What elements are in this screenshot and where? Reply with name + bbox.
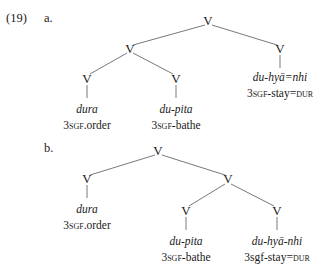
leaf-gloss-a-1: 3SGF.order (63, 120, 111, 132)
node-a-root: V (203, 14, 212, 27)
leaf-form-a-3: du-hyā=nhi (253, 72, 307, 84)
node-b-leaf2: V (181, 204, 190, 217)
leaf-form-a-1: dura (76, 104, 98, 116)
node-b-left: V (82, 172, 91, 185)
branch-b-root-right (162, 155, 225, 175)
leaf-form-b-1: dura (76, 204, 98, 216)
branch-a-mid-left (90, 53, 127, 74)
leaf-form-b-3: du-hyā-nhi (252, 236, 302, 248)
branch-a-mid-right (133, 53, 173, 74)
branch-a-root-right (212, 25, 277, 45)
leaf-gloss-b-1: 3SGF.order (63, 220, 111, 232)
branch-a-root-left (133, 25, 205, 45)
item-label-b: b. (44, 142, 53, 155)
branch-b-mid-right (231, 184, 274, 206)
leaf-gloss-b-3: 3sgf-stay=DUR (244, 252, 310, 264)
branch-b-root-left (90, 155, 155, 175)
node-a-leaf2: V (171, 72, 180, 85)
leaf-form-b-2: du-pita (169, 236, 202, 248)
example-number: (19) (6, 12, 27, 25)
node-a-right: V (275, 42, 284, 55)
branch-b-mid-left (189, 184, 225, 206)
leaf-gloss-b-2: 3SGF-bathe (161, 252, 210, 264)
item-label-a: a. (44, 12, 53, 25)
leaf-gloss-a-2: 3SGF-bathe (151, 120, 200, 132)
node-a-left: V (125, 42, 134, 55)
node-a-leaf1: V (82, 72, 91, 85)
node-b-leaf3: V (272, 204, 281, 217)
leaf-form-a-2: du-pita (159, 104, 192, 116)
figure-canvas: (19) a. V V V V V du-hyā=nhi 3SGF-stay=D… (0, 0, 335, 278)
node-b-right: V (223, 172, 232, 185)
node-b-root: V (153, 144, 162, 157)
leaf-gloss-a-3: 3SGF-stay=DUR (247, 88, 313, 100)
